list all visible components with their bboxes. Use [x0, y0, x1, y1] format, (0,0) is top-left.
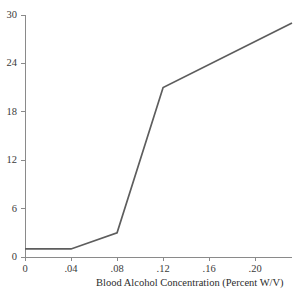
y-tick-label: 6: [0, 203, 17, 214]
plot-canvas: [0, 0, 296, 294]
x-tick-label: 0: [11, 263, 39, 274]
data-line: [25, 23, 292, 249]
ticks-group: [21, 15, 255, 261]
y-tick-label: 24: [0, 57, 17, 68]
x-tick-label: .20: [241, 263, 269, 274]
y-tick-label: 12: [0, 154, 17, 165]
axes-group: [25, 15, 292, 257]
data-series-group: [25, 23, 292, 249]
y-tick-label: 30: [0, 9, 17, 20]
x-axis-title: Blood Alcohol Concentration (Percent W/V…: [96, 277, 284, 288]
chart-figure: 0612182430 0.04.08.12.16.20 Blood Alcoho…: [0, 0, 296, 294]
y-tick-label: 18: [0, 106, 17, 117]
x-tick-label: .12: [149, 263, 177, 274]
x-tick-label: .08: [103, 263, 131, 274]
y-tick-label: 0: [0, 251, 17, 262]
x-tick-label: .16: [195, 263, 223, 274]
x-tick-label: .04: [57, 263, 85, 274]
